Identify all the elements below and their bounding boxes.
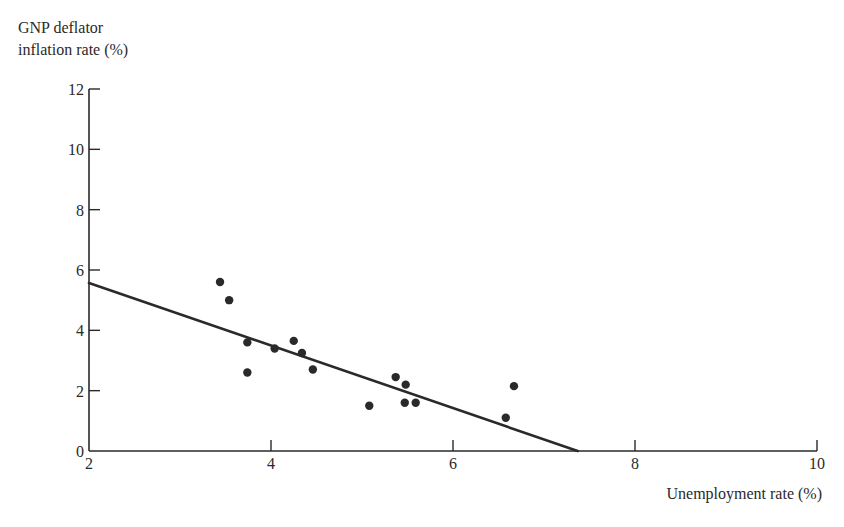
data-point [411,399,419,407]
data-point [391,373,399,381]
data-point [270,344,278,352]
data-points [216,278,518,422]
data-point [243,338,251,346]
data-point [243,368,251,376]
data-point [510,382,518,390]
fit-line-group [89,283,578,451]
y-tick-label: 12 [68,81,84,98]
x-tick-label: 6 [449,455,457,472]
x-tick-label: 4 [267,455,275,472]
y-tick-label: 10 [68,141,84,158]
fit-line [89,283,578,451]
y-tick-label: 4 [76,322,84,339]
y-tick-label: 8 [76,202,84,219]
y-ticks: 024681012 [68,81,100,460]
y-tick-label: 0 [76,443,84,460]
axes [89,89,817,451]
data-point [216,278,224,286]
data-point [401,399,409,407]
data-point [225,296,233,304]
x-tick-label: 10 [809,455,825,472]
data-point [365,402,373,410]
data-point [401,380,409,388]
data-point [309,365,317,373]
scatter-chart: 024681012 246810 [0,0,844,527]
y-tick-label: 6 [76,262,84,279]
data-point [290,337,298,345]
x-ticks: 246810 [85,440,825,472]
x-tick-label: 2 [85,455,93,472]
data-point [298,349,306,357]
y-tick-label: 2 [76,383,84,400]
data-point [502,414,510,422]
x-tick-label: 8 [631,455,639,472]
